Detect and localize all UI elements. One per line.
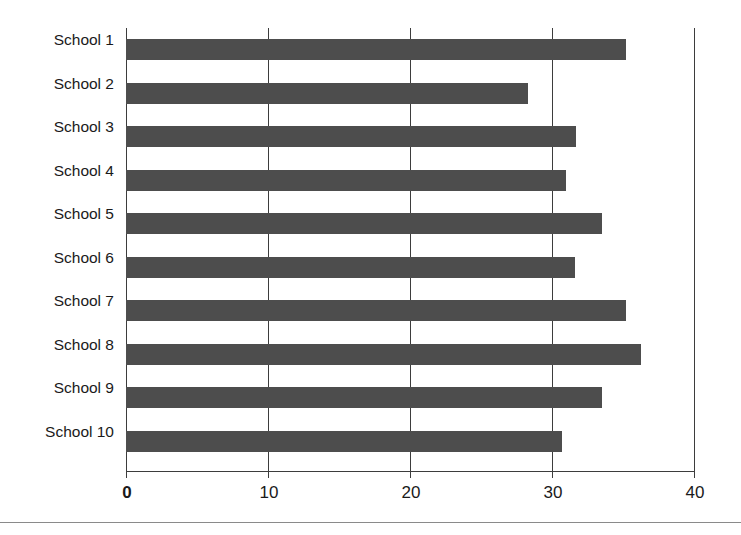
category-label-school-7: School 7	[2, 292, 114, 310]
x-axis-tick-label-40: 40	[686, 483, 705, 503]
bar-school-3	[126, 126, 576, 147]
bar-school-8	[126, 344, 641, 365]
bar-school-6	[126, 257, 575, 278]
category-label-school-10: School 10	[2, 423, 114, 441]
category-label-school-5: School 5	[2, 205, 114, 223]
category-axis-labels: School 1 School 2 School 3 School 4 Scho…	[0, 28, 114, 471]
bar-school-9	[126, 387, 602, 408]
x-axis-tick-0	[126, 471, 127, 478]
plot-area	[126, 28, 694, 471]
bottom-separator-rule	[0, 522, 741, 523]
bar-school-4	[126, 170, 566, 191]
category-label-school-6: School 6	[2, 249, 114, 267]
x-axis-tick-10	[268, 471, 269, 478]
category-label-school-9: School 9	[2, 379, 114, 397]
x-axis-tick-label-0: 0	[122, 483, 131, 503]
gridline-40	[694, 28, 695, 471]
bar-school-1	[126, 39, 626, 60]
x-axis-tick-20	[410, 471, 411, 478]
x-axis-tick-label-10: 10	[260, 483, 279, 503]
x-axis-tick-30	[552, 471, 553, 478]
category-label-school-1: School 1	[2, 31, 114, 49]
x-axis-tick-label-20: 20	[402, 483, 421, 503]
category-label-school-3: School 3	[2, 118, 114, 136]
x-axis-tick-40	[694, 471, 695, 478]
x-axis-tick-label-30: 30	[544, 483, 563, 503]
category-label-school-2: School 2	[2, 75, 114, 93]
bar-school-10	[126, 431, 562, 452]
category-label-school-8: School 8	[2, 336, 114, 354]
category-label-school-4: School 4	[2, 162, 114, 180]
bar-school-5	[126, 213, 602, 234]
bar-school-2	[126, 83, 528, 104]
bar-chart-figure: School 1 School 2 School 3 School 4 Scho…	[0, 0, 741, 535]
bar-school-7	[126, 300, 626, 321]
